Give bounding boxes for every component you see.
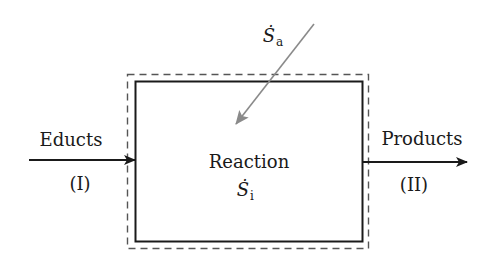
educts-label: Educts: [40, 129, 103, 150]
external-entropy-symbol: Ṡ a: [263, 24, 284, 49]
diagram-canvas: Educts (I) Products (II) Reaction Ṡ i Ṡ …: [0, 0, 493, 267]
svg-text:a: a: [276, 35, 283, 49]
reaction-label: Reaction: [209, 151, 290, 172]
internal-entropy-symbol: Ṡ i: [237, 178, 254, 203]
svg-text:Ṡ: Ṡ: [263, 24, 275, 46]
educts-index: (I): [69, 173, 90, 194]
svg-text:Ṡ: Ṡ: [237, 178, 249, 200]
products-label: Products: [381, 128, 462, 149]
svg-text:i: i: [250, 189, 254, 203]
products-index: (II): [400, 174, 428, 195]
